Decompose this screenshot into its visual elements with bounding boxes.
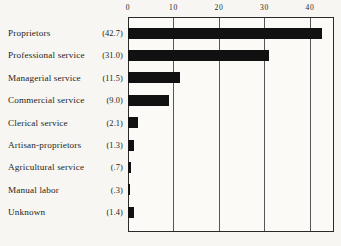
- table-row: Artisan-proprietors(1.3): [0, 134, 341, 156]
- value-label: (1.4): [0, 208, 123, 217]
- table-row: Professional service(31.0): [0, 44, 341, 66]
- table-row: Clerical service(2.1): [0, 112, 341, 134]
- table-row: Commercial service(9.0): [0, 89, 341, 111]
- value-label: (31.0): [0, 51, 123, 60]
- value-label: (1.3): [0, 141, 123, 150]
- table-row: Proprietors(42.7): [0, 22, 341, 44]
- category-rows: Proprietors(42.7)Professional service(31…: [0, 0, 341, 246]
- value-label: (.3): [0, 185, 123, 194]
- chart-figure: 010203040 Proprietors(42.7)Professional …: [0, 0, 341, 246]
- table-row: Managerial service(11.5): [0, 67, 341, 89]
- table-row: Unknown(1.4): [0, 201, 341, 223]
- table-row: Agricultural service(.7): [0, 156, 341, 178]
- value-label: (11.5): [0, 73, 123, 82]
- table-row: Manual labor(.3): [0, 179, 341, 201]
- value-label: (9.0): [0, 96, 123, 105]
- value-label: (.7): [0, 163, 123, 172]
- value-label: (2.1): [0, 118, 123, 127]
- value-label: (42.7): [0, 29, 123, 38]
